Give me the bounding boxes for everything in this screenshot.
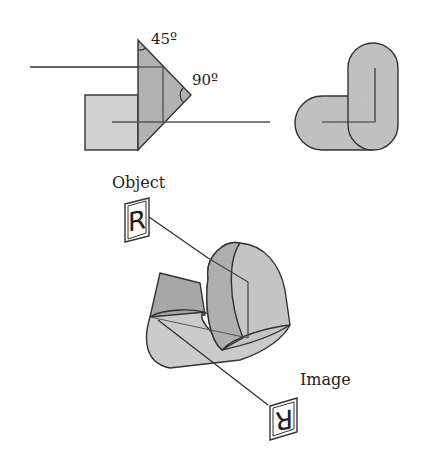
image-r-box: R	[270, 398, 297, 440]
angle-label-90: 90º	[192, 71, 218, 89]
vertical-capsule	[348, 43, 398, 150]
prism-triangle-face	[138, 40, 191, 150]
object-letter: R	[128, 204, 146, 238]
object-r-box: R	[125, 198, 149, 242]
image-label: Image	[300, 370, 351, 389]
image-letter: R	[275, 403, 293, 437]
prism-end-view	[295, 43, 398, 150]
prism-side-view	[30, 40, 270, 150]
roof-prism-diagram: 45º 90º Object R Image	[0, 0, 424, 462]
angle-label-45: 45º	[151, 30, 177, 48]
object-label: Object	[112, 173, 166, 192]
roof-prism-3d	[147, 243, 290, 368]
object-ray	[149, 217, 208, 258]
